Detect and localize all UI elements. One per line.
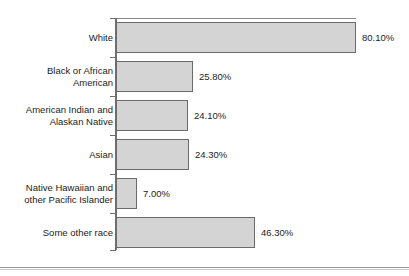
axis-tick (110, 174, 116, 175)
category-label: Some other race (0, 227, 113, 239)
bar-chart-figure: White 80.10% Black or African American 2… (0, 0, 409, 276)
bar-row: Asian 24.30% (0, 139, 409, 170)
bar (116, 100, 188, 131)
bar (116, 61, 193, 92)
bar-value-label: 7.00% (143, 188, 170, 199)
category-label: Native Hawaiian and other Pacific Island… (0, 182, 113, 206)
bar-row: Some other race 46.30% (0, 217, 409, 248)
bar-track: 25.80% (116, 61, 231, 92)
bar-track: 24.10% (116, 100, 226, 131)
bar-track: 24.30% (116, 139, 227, 170)
category-label: Asian (0, 149, 113, 161)
axis-tick (110, 18, 116, 19)
axis-tick (110, 213, 116, 214)
bar-track: 46.30% (116, 217, 293, 248)
bar-track: 80.10% (116, 22, 394, 53)
bar-value-label: 24.10% (194, 110, 226, 121)
category-label: Black or African American (0, 65, 113, 89)
axis-tick (110, 250, 116, 251)
bar-row: Black or African American 25.80% (0, 61, 409, 92)
bar (116, 139, 189, 170)
page-separator-rule-shadow (0, 269, 409, 270)
bar-value-label: 25.80% (199, 71, 231, 82)
bar-row: American Indian and Alaskan Native 24.10… (0, 100, 409, 131)
bar (116, 22, 356, 53)
bar (116, 178, 137, 209)
bar (116, 217, 255, 248)
category-label: American Indian and Alaskan Native (0, 104, 113, 128)
page-separator-rule (0, 267, 409, 268)
bar-row: Native Hawaiian and other Pacific Island… (0, 178, 409, 209)
category-label: White (0, 32, 113, 44)
bar-value-label: 80.10% (362, 32, 394, 43)
bar-row: White 80.10% (0, 22, 409, 53)
bar-value-label: 46.30% (261, 227, 293, 238)
bar-value-label: 24.30% (195, 149, 227, 160)
axis-tick (110, 135, 116, 136)
plot-top-border (115, 18, 356, 19)
axis-tick (110, 57, 116, 58)
bar-track: 7.00% (116, 178, 170, 209)
axis-tick (110, 96, 116, 97)
